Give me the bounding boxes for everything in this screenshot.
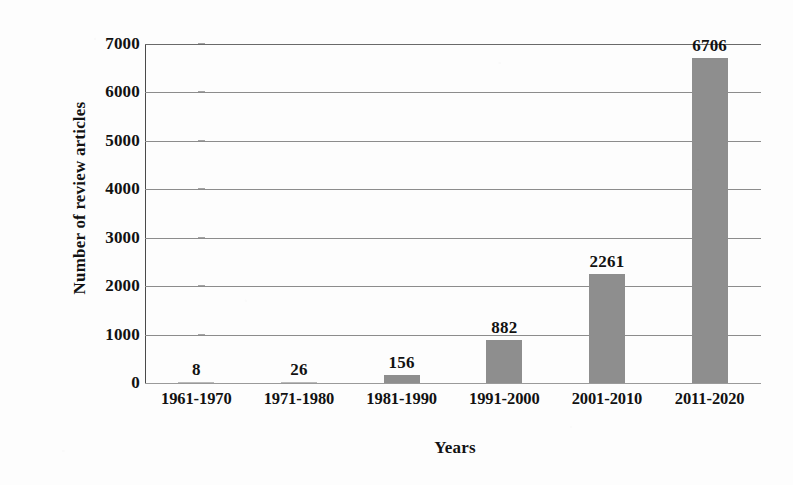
bar [486, 340, 522, 383]
x-tick-label: 1991-2000 [453, 389, 556, 409]
x-tick-label: 2011-2020 [658, 389, 761, 409]
bar-value-label: 882 [454, 318, 554, 338]
bar-value-label: 6706 [660, 36, 760, 56]
gridline [145, 286, 761, 287]
gridline [145, 92, 761, 93]
bar [692, 58, 728, 383]
plot-area [145, 44, 761, 383]
gridline [145, 189, 761, 190]
gridline [145, 238, 761, 239]
x-tick-label: 2001-2010 [556, 389, 659, 409]
x-tick-label: 1981-1990 [350, 389, 453, 409]
x-tick-label: 1961-1970 [145, 389, 248, 409]
bar [384, 375, 420, 383]
bar-value-label: 26 [249, 360, 349, 380]
bar-chart-figure: Number of review articles 01000200030004… [0, 0, 793, 485]
y-axis-tick-labels: 01000200030004000500060007000 [60, 0, 140, 485]
y-tick-label: 0 [62, 373, 140, 393]
gridline [145, 335, 761, 336]
bar-value-label: 8 [146, 360, 246, 380]
bar [589, 274, 625, 383]
y-tick-label: 7000 [62, 34, 140, 54]
gridline [145, 141, 761, 142]
x-axis-tick-labels: 1961-19701971-19801981-19901991-20002001… [145, 389, 761, 415]
y-tick-label: 1000 [62, 325, 140, 345]
bar [178, 382, 214, 383]
y-tick-label: 6000 [62, 82, 140, 102]
y-tick-label: 4000 [62, 179, 140, 199]
x-axis-title: Years [145, 438, 765, 458]
bar-value-label: 156 [352, 353, 452, 373]
gridline [145, 383, 761, 384]
y-tick-label: 3000 [62, 228, 140, 248]
y-tick-label: 2000 [62, 276, 140, 296]
bar-value-label: 2261 [557, 252, 657, 272]
bar [281, 382, 317, 383]
y-tick-label: 5000 [62, 131, 140, 151]
x-tick-label: 1971-1980 [248, 389, 351, 409]
